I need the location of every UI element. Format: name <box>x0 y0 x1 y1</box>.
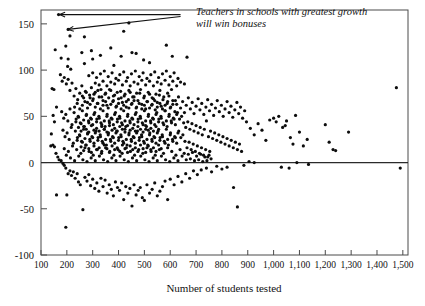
x-tick-label: 1,500 <box>392 260 414 270</box>
x-axis-ticks: 1002003004005006007008009001,0001,1001,2… <box>34 250 414 270</box>
scatter-plot: 1002003004005006007008009001,0001,1001,2… <box>0 0 425 306</box>
x-tick-label: 100 <box>34 260 49 270</box>
x-tick-label: 200 <box>60 260 75 270</box>
y-tick-label: 150 <box>18 19 34 30</box>
x-tick-label: 1,000 <box>263 260 285 270</box>
y-tick-label: -50 <box>20 204 34 215</box>
x-tick-label: 500 <box>137 260 152 270</box>
x-axis-title: Number of students tested <box>166 282 282 294</box>
annotation-arrows <box>60 12 181 31</box>
y-tick-label: -100 <box>15 250 34 261</box>
x-tick-label: 1,400 <box>366 260 388 270</box>
data-points <box>49 13 402 229</box>
y-axis-ticks: -100-50050100150 <box>15 19 47 261</box>
y-tick-label: 0 <box>29 158 34 169</box>
chart-container: 1002003004005006007008009001,0001,1001,2… <box>0 0 425 306</box>
y-tick-label: 50 <box>24 111 35 122</box>
x-tick-label: 600 <box>163 260 178 270</box>
x-tick-label: 700 <box>189 260 204 270</box>
x-tick-label: 800 <box>215 260 230 270</box>
x-tick-label: 300 <box>86 260 101 270</box>
annotation-line-2: will win bonuses <box>196 18 266 29</box>
x-tick-label: 900 <box>241 260 256 270</box>
x-tick-label: 400 <box>111 260 126 270</box>
annotation-line-1: Teachers in schools with greatest growth <box>196 6 367 17</box>
x-tick-label: 1,200 <box>315 260 337 270</box>
x-tick-label: 1,100 <box>289 260 311 270</box>
y-tick-label: 100 <box>18 65 34 76</box>
x-tick-label: 1,300 <box>340 260 362 270</box>
